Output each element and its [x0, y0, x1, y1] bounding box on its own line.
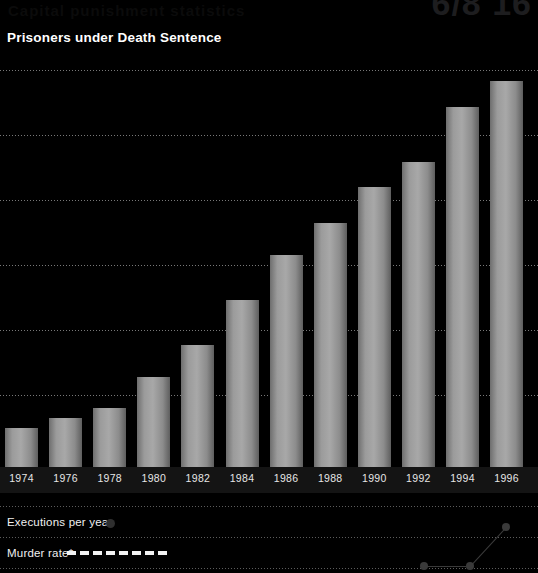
- legend-dash-segment: [80, 551, 89, 555]
- legend-dash-segment: [106, 551, 115, 555]
- series-line-segment: [470, 527, 507, 567]
- clipped-corner-fragment: 6/8 16: [431, 0, 532, 23]
- legend-dash-segment: [145, 551, 154, 555]
- bar: [137, 377, 170, 467]
- x-axis-tick-label: 1992: [402, 472, 435, 484]
- series-line-segment: [424, 566, 470, 567]
- legend-dash-segment: [132, 551, 141, 555]
- legend-dashed-line-icon-murder-rate: [67, 551, 167, 555]
- x-axis-tick-label: 1976: [49, 472, 82, 484]
- bar: [5, 428, 38, 467]
- bar: [490, 81, 523, 467]
- gridline: [0, 70, 538, 71]
- x-axis-tick-label: 1994: [446, 472, 479, 484]
- bar: [93, 408, 126, 467]
- legend-circle-icon-executions: [106, 519, 115, 528]
- x-axis-tick-label: 1980: [137, 472, 170, 484]
- legend-dash-segment: [67, 551, 76, 555]
- bar: [270, 255, 303, 467]
- bar: [446, 107, 479, 467]
- legend-divider: [0, 506, 538, 507]
- x-axis-tick-label: 1984: [226, 472, 259, 484]
- x-axis-tick-label: 1990: [358, 472, 391, 484]
- x-axis-tick-label: 1982: [181, 472, 214, 484]
- bar: [49, 418, 82, 467]
- clipped-header-text: Capital punishment statistics: [8, 2, 245, 19]
- x-axis-tick-label: 1996: [490, 472, 523, 484]
- bar: [226, 300, 259, 467]
- bar: [358, 187, 391, 467]
- legend-label-executions: Executions per year: [7, 516, 112, 528]
- legend-dash-segment: [93, 551, 102, 555]
- plot-area: [0, 55, 538, 467]
- chart-title: Prisoners under Death Sentence: [7, 30, 222, 45]
- chart-page: Capital punishment statistics 6/8 16 Pri…: [0, 0, 538, 573]
- legend-dash-segment: [158, 551, 167, 555]
- x-axis-tick-label: 1974: [5, 472, 38, 484]
- legend-label-murder-rate: Murder rate*: [7, 547, 73, 559]
- series-data-point: [502, 523, 510, 531]
- bar: [181, 345, 214, 467]
- bar: [314, 223, 347, 468]
- clipped-header-strip: Capital punishment statistics 6/8 16: [0, 0, 538, 28]
- bar: [402, 162, 435, 467]
- x-axis-tick-label: 1978: [93, 472, 126, 484]
- legend-divider: [0, 537, 538, 538]
- x-axis-tick-label: 1986: [270, 472, 303, 484]
- x-axis-tick-label: 1988: [314, 472, 347, 484]
- legend-dash-segment: [119, 551, 128, 555]
- legend-divider: [0, 568, 538, 569]
